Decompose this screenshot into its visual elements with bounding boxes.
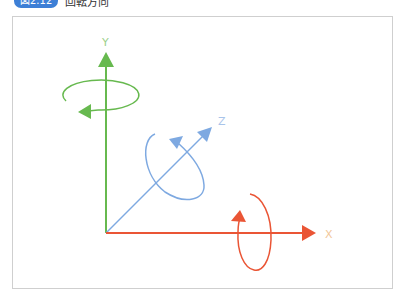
y-axis-label: Y xyxy=(101,36,109,49)
x-axis-label: X xyxy=(325,228,333,241)
z-rotation-arrow-icon xyxy=(169,136,183,149)
x-axis: X xyxy=(106,194,333,270)
x-rotation-arrow-icon xyxy=(231,210,246,222)
rotation-axes-diagram: Y Z X xyxy=(0,0,406,301)
z-axis-label: Z xyxy=(218,115,226,128)
z-axis: Z xyxy=(106,115,226,233)
y-rotation-arrow-icon xyxy=(78,104,91,119)
x-axis-arrowhead-icon xyxy=(302,225,316,241)
y-axis-arrowhead-icon xyxy=(98,52,114,67)
y-rotation-ring xyxy=(63,80,139,110)
y-axis: Y xyxy=(63,36,139,233)
